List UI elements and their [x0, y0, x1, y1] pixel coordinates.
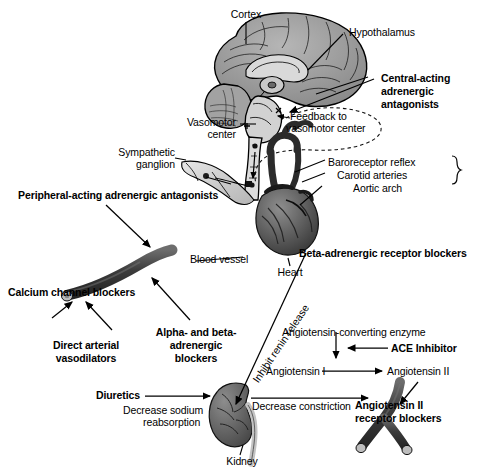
drug-ace-inhibitor[interactable]: ACE Inhibitor [391, 342, 457, 354]
drug-angiotensin-ii-receptor-blockers-line2[interactable]: receptor blockers [355, 412, 441, 424]
leader-lines [175, 22, 368, 455]
label-heart: Heart [277, 266, 302, 278]
drug-diuretics[interactable]: Diuretics [96, 389, 140, 401]
label-baroreceptor-reflex: Baroreceptor reflex [328, 156, 415, 168]
drug-alpha-and-beta-adrenergic-blockers-line3[interactable]: blockers [175, 352, 217, 364]
drug-alpha-and-beta-adrenergic-blockers-line1[interactable]: Alpha- and beta- [156, 326, 237, 338]
label-hypothalamus: Hypothalamus [349, 26, 415, 38]
anatomy-artwork [0, 0, 477, 468]
heart-illustration [256, 186, 318, 255]
label-feedback-line1: Feedback to [290, 110, 347, 122]
label-aortic-arch: Aortic arch [353, 182, 402, 194]
diagram-canvas: Cortex Hypothalamus Vasomotor center Sym… [0, 0, 477, 468]
label-blood-vessel: Blood vessel [190, 253, 248, 265]
drug-direct-arterial-vasodilators-line1[interactable]: Direct arterial [53, 339, 119, 351]
drug-calcium-channel-blockers[interactable]: Calcium channel blockers [8, 286, 135, 298]
drug-central-acting-adrenergic-antagonists-line2[interactable]: adrenergic [381, 85, 434, 97]
label-sympathetic-ganglion-line2: ganglion [136, 158, 175, 170]
label-carotid-arteries: Carotid arteries [337, 169, 407, 181]
label-decrease-constriction: Decrease constriction [252, 400, 351, 412]
label-feedback-line2: vasomotor center [286, 122, 366, 134]
drug-central-acting-adrenergic-antagonists-line3[interactable]: antagonists [381, 98, 439, 110]
drug-central-acting-adrenergic-antagonists-line1[interactable]: Central-acting [381, 72, 450, 84]
label-cortex: Cortex [231, 8, 261, 20]
drug-beta-adrenergic-receptor-blockers[interactable]: Beta-adrenergic receptor blockers [299, 247, 467, 259]
drug-alpha-and-beta-adrenergic-blockers-line2[interactable]: adrenergic [170, 339, 223, 351]
label-sympathetic-ganglion-line1: Sympathetic [118, 146, 175, 158]
label-decrease-sodium-line2: reabsorption [143, 416, 200, 428]
drug-angiotensin-ii-receptor-blockers-line1[interactable]: Angiotensin II [355, 399, 423, 411]
label-vasomotor-center-line2: center [207, 128, 236, 140]
drug-direct-arterial-vasodilators-line2[interactable]: vasodilators [56, 352, 117, 364]
kidney-illustration [209, 383, 255, 464]
drug-peripheral-acting-adrenergic-antagonists[interactable]: Peripheral-acting adrenergic antagonists [18, 189, 218, 201]
label-angiotensin-i: Angiotensin I [266, 365, 325, 377]
baroreceptor-brace [452, 156, 461, 184]
label-vasomotor-center-line1: Vasomotor [187, 116, 236, 128]
label-kidney: Kidney [226, 455, 258, 467]
label-decrease-sodium-line1: Decrease sodium [123, 404, 203, 416]
label-angiotensin-ii: Angiotensin II [387, 365, 449, 377]
label-ace-enzyme: Angiotensin-converting enzyme [282, 326, 426, 338]
